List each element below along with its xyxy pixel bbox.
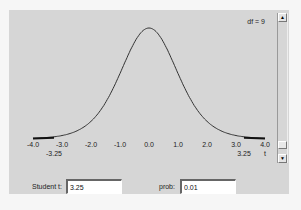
right-critical-label: 3.25: [237, 150, 251, 157]
x-tick: -4.0: [27, 141, 39, 148]
left-critical-label: -3.25: [46, 150, 62, 157]
x-tick: 4.0: [260, 141, 270, 148]
left-tail-shade: [33, 138, 54, 139]
student-t-input[interactable]: [66, 179, 122, 194]
x-tick: 3.0: [231, 141, 241, 148]
x-tick: 1.0: [173, 141, 183, 148]
x-tick: 2.0: [202, 141, 212, 148]
prob-label: prob:: [159, 183, 175, 190]
x-tick: 0.0: [144, 141, 154, 148]
axis-variable-label: t: [264, 150, 266, 157]
x-tick: -3.0: [56, 141, 68, 148]
right-tail-shade: [244, 138, 265, 139]
scroll-up-button[interactable]: ▲: [278, 13, 287, 22]
t-distribution-applet: df = 9 -4.0 -3.0 -2.0 -1.0 0.0 1.0 2.0 3…: [9, 10, 289, 194]
arrow-up-icon: ▲: [280, 14, 285, 20]
scroll-down-button[interactable]: ▼: [278, 154, 287, 163]
prob-input[interactable]: [180, 179, 236, 194]
df-label: df = 9: [247, 18, 265, 25]
x-tick: -1.0: [114, 141, 126, 148]
student-t-label: Student t:: [32, 183, 62, 190]
arrow-down-icon: ▼: [280, 155, 285, 161]
df-scrollbar[interactable]: ▲ ▼: [277, 13, 288, 163]
scroll-thumb[interactable]: [278, 141, 287, 149]
x-tick: -2.0: [85, 141, 97, 148]
